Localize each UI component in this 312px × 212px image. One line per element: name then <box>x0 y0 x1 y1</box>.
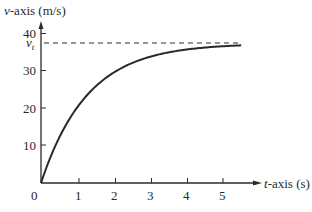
x-tick-label: 3 <box>147 188 154 203</box>
x-axis-arrow-icon <box>253 181 262 186</box>
origin-label: 0 <box>31 188 38 203</box>
x-tick-label: 1 <box>75 188 82 203</box>
x-axis-label: t-axis (s) <box>264 176 310 191</box>
y-axis-label: v-axis (m/s) <box>4 3 66 18</box>
velocity-time-chart: v-axis (m/s) t-axis (s) 0 1 2 3 4 5 10 2… <box>0 0 312 212</box>
x-tick-label: 2 <box>111 188 118 203</box>
y-tick-label: 30 <box>23 63 36 78</box>
velocity-curve <box>41 45 241 183</box>
y-tick-label: 20 <box>23 101 36 116</box>
x-tick-label: 4 <box>183 188 190 203</box>
x-ticks <box>79 178 223 183</box>
y-tick-label: 10 <box>23 138 36 153</box>
y-axis-arrow-icon <box>39 21 44 29</box>
y-ticks <box>41 34 46 146</box>
x-tick-label: 5 <box>219 188 226 203</box>
